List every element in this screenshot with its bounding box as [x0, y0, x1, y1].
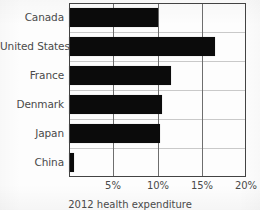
- category-label-france: France: [0, 70, 64, 81]
- category-label-china: China: [0, 157, 64, 168]
- category-label-denmark: Denmark: [0, 99, 64, 110]
- chart-caption: 2012 health expenditure: [0, 199, 260, 210]
- plot-frame-border: [69, 3, 246, 177]
- category-label-japan: Japan: [0, 128, 64, 139]
- x-tick-label-10pct: 10%: [147, 180, 169, 192]
- category-label-canada: Canada: [0, 12, 64, 23]
- x-axis-tick-labels: 5%10%15%20%: [69, 180, 246, 193]
- bar-chart-figure: Canada United States France Denmark Japa…: [0, 0, 260, 210]
- x-tick-label-20pct: 20%: [235, 180, 257, 192]
- category-label-united-states: United States: [0, 41, 64, 52]
- category-axis-labels: Canada United States France Denmark Japa…: [0, 0, 66, 176]
- x-tick-label-5pct: 5%: [105, 180, 121, 192]
- plot-area: [69, 3, 246, 177]
- x-tick-label-15pct: 15%: [191, 180, 213, 192]
